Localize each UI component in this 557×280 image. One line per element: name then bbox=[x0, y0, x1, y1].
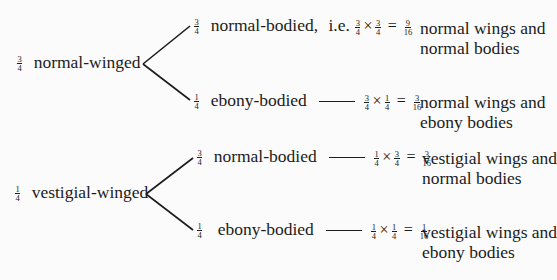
leaf-normal-bodied: 34 normal-bodied 14×34 = 316 bbox=[196, 146, 432, 167]
probability-calculation: 14×14 = 116 bbox=[366, 221, 429, 238]
leaf-label: ebony-bodied bbox=[218, 219, 314, 239]
probability-fraction: 34 bbox=[194, 18, 199, 35]
result-line-2: normal bodies bbox=[420, 38, 545, 58]
denominator: 4 bbox=[16, 194, 20, 202]
denominator: 4 bbox=[392, 232, 396, 240]
leaf-ebony-bodied: 14 ebony-bodied 34×14 = 316 bbox=[193, 90, 422, 111]
branch-vestigial-winged: 14 vestigial-winged bbox=[14, 182, 148, 203]
ie-connector: i.e. bbox=[328, 15, 349, 35]
probability-fraction: 14 bbox=[15, 185, 20, 202]
times-sign: × bbox=[363, 17, 372, 34]
result-line-1: normal wings and bbox=[420, 92, 545, 112]
equals-sign: = bbox=[397, 92, 406, 109]
dash-connector bbox=[319, 101, 355, 102]
denominator: 4 bbox=[372, 232, 376, 240]
denominator: 4 bbox=[356, 28, 360, 36]
probability-fraction: 14 bbox=[194, 93, 199, 110]
denominator: 4 bbox=[375, 159, 379, 167]
times-sign: × bbox=[382, 148, 391, 165]
denominator: 4 bbox=[385, 103, 389, 111]
denominator: 4 bbox=[18, 64, 22, 72]
probability-fraction: 34 bbox=[17, 55, 22, 72]
probability-calculation: 34×34 = 916 bbox=[354, 17, 413, 34]
branch-label: vestigial-winged bbox=[32, 182, 149, 202]
phenotype-result: normal wings and ebony bodies bbox=[420, 92, 545, 132]
leaf-ebony-bodied: 14 ebony-bodied 14×14 = 116 bbox=[196, 219, 429, 240]
equals-sign: = bbox=[404, 221, 413, 238]
denominator: 4 bbox=[195, 27, 199, 35]
leaf-label: normal-bodied, bbox=[211, 15, 318, 35]
phenotype-result: vestigial wings and ebony bodies bbox=[422, 222, 557, 262]
denominator: 4 bbox=[198, 158, 202, 166]
denominator: 4 bbox=[365, 103, 369, 111]
dash-connector bbox=[326, 230, 362, 231]
phenotype-result: vestigial wings and normal bodies bbox=[422, 148, 557, 188]
denominator: 4 bbox=[376, 28, 380, 36]
denominator: 16 bbox=[404, 28, 413, 36]
result-line-2: normal bodies bbox=[422, 168, 557, 188]
result-line-2: ebony bodies bbox=[420, 112, 545, 132]
leaf-label: ebony-bodied bbox=[211, 90, 307, 110]
probability-fraction: 34 bbox=[197, 149, 202, 166]
denominator: 4 bbox=[395, 159, 399, 167]
times-sign: × bbox=[379, 221, 388, 238]
times-sign: × bbox=[372, 92, 381, 109]
denominator: 4 bbox=[195, 102, 199, 110]
equals-sign: = bbox=[388, 17, 397, 34]
leaf-label: normal-bodied bbox=[214, 146, 317, 166]
probability-fraction: 14 bbox=[197, 222, 202, 239]
denominator: 4 bbox=[198, 231, 202, 239]
phenotype-result: normal wings and normal bodies bbox=[420, 18, 545, 58]
result-line-1: vestigial wings and bbox=[422, 148, 557, 168]
dash-connector bbox=[329, 157, 365, 158]
result-line-2: ebony bodies bbox=[422, 242, 557, 262]
equals-sign: = bbox=[407, 148, 416, 165]
probability-calculation: 34×14 = 316 bbox=[359, 92, 422, 109]
result-line-1: normal wings and bbox=[420, 18, 545, 38]
leaf-normal-bodied: 34 normal-bodied, i.e. 34×34 = 916 bbox=[193, 15, 413, 36]
branch-normal-winged: 34 normal-winged bbox=[16, 52, 141, 73]
result-line-1: vestigial wings and bbox=[422, 222, 557, 242]
branch-label: normal-winged bbox=[34, 52, 141, 72]
